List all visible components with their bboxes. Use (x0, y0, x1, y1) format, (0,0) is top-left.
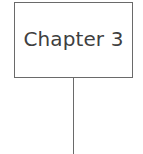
chapter-node-label: Chapter 3 (24, 29, 124, 49)
vertical-connector-line (73, 78, 74, 154)
diagram-canvas: Chapter 3 (0, 0, 143, 154)
chapter-node-box[interactable]: Chapter 3 (14, 2, 133, 78)
